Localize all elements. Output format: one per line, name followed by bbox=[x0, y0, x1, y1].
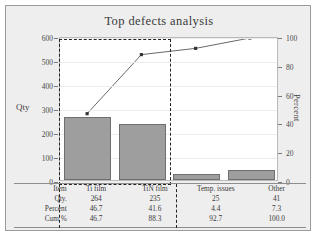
pareto-values-table: ItemTi filmTiN filmTemp. issuesOtherQty.… bbox=[14, 184, 306, 224]
y-axis-right: 100806040200 bbox=[278, 37, 318, 183]
y-right-tick-label: 20 bbox=[286, 149, 294, 158]
y-left-tick-mark bbox=[54, 86, 58, 87]
y-right-tick-mark bbox=[278, 153, 282, 154]
table-top-rule bbox=[14, 183, 306, 184]
page-title: Top defects analysis bbox=[6, 14, 312, 29]
bar-1[interactable] bbox=[119, 124, 166, 180]
table-cell: 25 bbox=[184, 194, 247, 204]
y-axis-left: 6005004003002001000 bbox=[6, 37, 57, 183]
table-dash-right bbox=[176, 184, 177, 228]
table-cell: 46.7 bbox=[67, 214, 126, 224]
y-left-tick-label: 400 bbox=[42, 82, 53, 91]
table-row: Cum %46.788.392.7100.0 bbox=[14, 214, 306, 224]
gridline bbox=[60, 62, 277, 63]
table-cell: 7.3 bbox=[247, 204, 306, 214]
y-left-tick-label: 200 bbox=[42, 130, 53, 139]
y-left-tick-mark bbox=[54, 110, 58, 111]
y-left-tick-mark bbox=[54, 158, 58, 159]
y-left-tick-label: 600 bbox=[42, 34, 53, 43]
y-left-tick-mark bbox=[54, 134, 58, 135]
table-cell: Other bbox=[247, 184, 306, 194]
y-right-tick-mark bbox=[278, 96, 282, 97]
cumulative-marker-2[interactable] bbox=[194, 47, 197, 50]
gridline bbox=[60, 110, 277, 111]
table-cell: 46.7 bbox=[67, 204, 126, 214]
plot-area[interactable] bbox=[59, 37, 278, 181]
cumulative-marker-1[interactable] bbox=[140, 53, 143, 56]
table-cell: 4.4 bbox=[184, 204, 247, 214]
y-right-tick-mark bbox=[278, 38, 282, 39]
y-left-tick-label: 500 bbox=[42, 58, 53, 67]
table-cell: 41 bbox=[247, 194, 306, 204]
y-right-tick-mark bbox=[278, 67, 282, 68]
table-row: ItemTi filmTiN filmTemp. issuesOther bbox=[14, 184, 306, 194]
y-right-tick-label: 40 bbox=[286, 120, 294, 129]
cumulative-marker-0[interactable] bbox=[86, 112, 89, 115]
table-cell: 92.7 bbox=[184, 214, 247, 224]
data-table: ItemTi filmTiN filmTemp. issuesOtherQty.… bbox=[14, 184, 306, 228]
chart-frame: Top defects analysis Qty 600500400300200… bbox=[5, 5, 311, 231]
bar-2[interactable] bbox=[173, 174, 220, 180]
table-row: Qty.2642352541 bbox=[14, 194, 306, 204]
y-left-tick-label: 300 bbox=[42, 106, 53, 115]
table-row: Percent46.741.64.47.3 bbox=[14, 204, 306, 214]
table-cell: 100.0 bbox=[247, 214, 306, 224]
table-dash-left bbox=[59, 184, 60, 228]
table-cell: 264 bbox=[67, 194, 126, 204]
bar-0[interactable] bbox=[64, 117, 111, 180]
cumulative-line-path bbox=[87, 38, 250, 114]
y-left-tick-label: 100 bbox=[42, 154, 53, 163]
bar-3[interactable] bbox=[228, 170, 275, 180]
y-left-tick-mark bbox=[54, 62, 58, 63]
gridline bbox=[60, 38, 277, 39]
table-cell: Ti film bbox=[67, 184, 126, 194]
gridline bbox=[60, 86, 277, 87]
table-cell: Temp. issues bbox=[184, 184, 247, 194]
y-right-tick-label: 60 bbox=[286, 91, 294, 100]
y-left-tick-mark bbox=[54, 38, 58, 39]
table-bottom-rule bbox=[14, 227, 306, 228]
y-right-tick-label: 100 bbox=[286, 34, 297, 43]
y-right-tick-label: 80 bbox=[286, 62, 294, 71]
y-right-tick-mark bbox=[278, 124, 282, 125]
